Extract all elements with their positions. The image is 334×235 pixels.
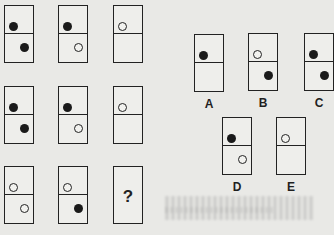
grid-domino [113, 5, 143, 63]
white-dot-icon [63, 183, 72, 192]
white-dot-icon [74, 124, 83, 133]
black-dot-icon [309, 50, 318, 59]
domino-divider [59, 194, 87, 195]
black-dot-icon [320, 71, 329, 80]
option-label[interactable]: B [248, 96, 278, 110]
domino-divider [195, 62, 223, 63]
black-dot-icon [63, 22, 72, 31]
black-dot-icon [20, 43, 29, 52]
white-dot-icon [281, 134, 290, 143]
white-dot-icon [238, 155, 247, 164]
white-dot-icon [20, 204, 29, 213]
grid-domino [4, 86, 34, 144]
grid-domino [58, 166, 88, 224]
bleed-through-text [165, 207, 275, 213]
option-label[interactable]: C [304, 96, 334, 110]
grid-domino [4, 166, 34, 224]
domino-divider [59, 33, 87, 34]
white-dot-icon [118, 103, 127, 112]
missing-domino: ? [113, 166, 143, 224]
black-dot-icon [227, 134, 236, 143]
domino-divider [277, 145, 305, 146]
grid-domino [4, 5, 34, 63]
black-dot-icon [9, 22, 18, 31]
black-dot-icon [20, 124, 29, 133]
grid-domino [113, 86, 143, 144]
grid-domino [58, 86, 88, 144]
option-e-domino[interactable] [276, 117, 306, 175]
black-dot-icon [63, 103, 72, 112]
option-d-domino[interactable] [222, 117, 252, 175]
domino-divider [5, 114, 33, 115]
option-b-domino[interactable] [248, 33, 278, 91]
black-dot-icon [199, 51, 208, 60]
grid-domino [58, 5, 88, 63]
domino-divider [114, 114, 142, 115]
domino-divider [249, 61, 277, 62]
domino-divider [223, 145, 251, 146]
black-dot-icon [74, 204, 83, 213]
option-label[interactable]: A [194, 97, 224, 111]
option-label[interactable]: E [276, 180, 306, 194]
option-c-domino[interactable] [304, 33, 334, 91]
black-dot-icon [264, 71, 273, 80]
white-dot-icon [118, 22, 127, 31]
domino-divider [305, 61, 333, 62]
white-dot-icon [9, 183, 18, 192]
domino-divider [59, 114, 87, 115]
missing-piece-question-mark: ? [114, 187, 142, 207]
white-dot-icon [74, 43, 83, 52]
option-a-domino[interactable] [194, 34, 224, 92]
black-dot-icon [9, 103, 18, 112]
domino-divider [5, 33, 33, 34]
domino-divider [114, 33, 142, 34]
white-dot-icon [253, 50, 262, 59]
option-label[interactable]: D [222, 180, 252, 194]
domino-divider [5, 194, 33, 195]
